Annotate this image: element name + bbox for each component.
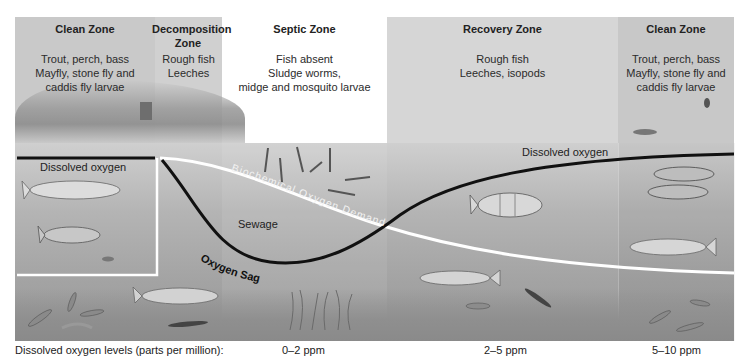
caddis-case-icon bbox=[633, 129, 657, 135]
leech-recovery-icon bbox=[523, 287, 552, 309]
clean-zone-box bbox=[17, 158, 157, 275]
sludge-worms-icon bbox=[290, 290, 352, 330]
mayfly-adult-icon bbox=[704, 98, 710, 108]
sewage-pipe-icon bbox=[140, 102, 152, 120]
sewage-label: Sewage bbox=[238, 218, 278, 230]
mayfly-larvae-icon bbox=[27, 292, 104, 329]
insect-icon bbox=[102, 257, 114, 262]
ppm-level-recovery: 2–5 ppm bbox=[484, 344, 527, 356]
perch-fish-icon bbox=[470, 193, 542, 217]
dissolved-oxygen-label-right: Dissolved oxygen bbox=[522, 146, 608, 158]
isopod-icon bbox=[466, 303, 490, 309]
ppm-level-clean: 5–10 ppm bbox=[652, 344, 701, 356]
trout-fish-icon bbox=[22, 181, 120, 199]
leech-icon bbox=[168, 320, 208, 328]
dissolved-oxygen-label-left: Dissolved oxygen bbox=[40, 161, 126, 173]
trout-right-icon bbox=[630, 238, 716, 256]
ppm-level-septic: 0–2 ppm bbox=[282, 344, 325, 356]
rough-fish-recovery-icon bbox=[420, 270, 500, 286]
bass-fish-icon bbox=[38, 226, 100, 243]
stonefly-larvae-icon bbox=[648, 299, 710, 333]
bass-pair-icon bbox=[648, 167, 714, 199]
footer-axis-label: Dissolved oxygen levels (parts per milli… bbox=[15, 344, 223, 356]
rough-fish-icon bbox=[133, 287, 218, 304]
